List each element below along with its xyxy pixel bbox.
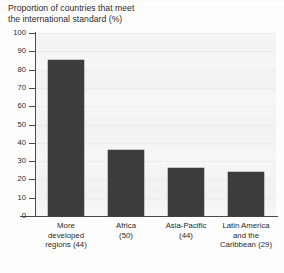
y-axis-tick — [29, 51, 35, 52]
y-axis-tick-label: 30 — [0, 157, 26, 165]
y-axis-tick — [29, 143, 35, 144]
chart-title: Proportion of countries that meet the in… — [8, 3, 248, 24]
y-axis-tick — [29, 161, 35, 162]
y-axis-tick-label: 100 — [0, 29, 26, 37]
y-axis-tick — [29, 179, 35, 180]
y-axis-tick-label: 50 — [0, 121, 26, 129]
y-axis-tick-label: 60 — [0, 102, 26, 110]
y-axis-tick-label: 90 — [0, 47, 26, 55]
y-axis-tick-label: 0 — [0, 212, 26, 220]
y-axis-tick — [29, 125, 35, 126]
y-axis-tick-label: 10 — [0, 194, 26, 202]
y-axis-tick — [29, 216, 35, 217]
y-axis-tick — [29, 88, 35, 89]
bar[interactable] — [108, 150, 144, 216]
y-axis-tick-label: 70 — [0, 84, 26, 92]
plot-area — [36, 33, 276, 216]
y-axis-tick — [29, 70, 35, 71]
bar[interactable] — [168, 168, 204, 216]
y-axis-tick-label: 40 — [0, 139, 26, 147]
bar[interactable] — [228, 172, 264, 216]
y-axis-tick — [29, 198, 35, 199]
y-axis-tick-label: 20 — [0, 175, 26, 183]
bar-chart-figure: Proportion of countries that meet the in… — [0, 0, 284, 273]
y-axis-tick — [29, 33, 35, 34]
bar[interactable] — [48, 60, 84, 216]
gridline — [36, 33, 276, 34]
x-axis-line — [20, 216, 278, 217]
gridline — [36, 51, 276, 52]
x-axis-category-label: Latin America and the Caribbean (29) — [204, 221, 284, 250]
y-axis-tick — [29, 106, 35, 107]
y-axis-tick-label: 80 — [0, 66, 26, 74]
